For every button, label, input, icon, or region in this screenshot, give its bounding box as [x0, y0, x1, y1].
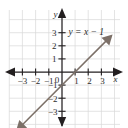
- y-tick-label: 3: [52, 28, 57, 38]
- graph-figure: −3 −2 −1 1 2 3 3 2 1 −1 −2 −3 0 x y y = …: [0, 0, 128, 128]
- y-tick-label: −2: [48, 94, 58, 104]
- y-tick-label: 1: [52, 54, 57, 64]
- x-axis-label: x: [113, 74, 118, 84]
- y-axis-label: y: [53, 9, 58, 19]
- x-tick-label: −2: [31, 76, 41, 86]
- x-tick-label: 2: [87, 76, 92, 86]
- x-axis-arrow-left-icon: [5, 68, 15, 77]
- y-axis-arrow-down-icon: [58, 117, 66, 127]
- x-tick-label: 1: [74, 76, 79, 86]
- y-axis-arrow-up-icon: [58, 8, 66, 18]
- coordinate-plane-svg: −3 −2 −1 1 2 3 3 2 1 −1 −2 −3 0 x y y = …: [0, 0, 128, 128]
- x-tick-label: 3: [100, 76, 105, 86]
- equation-label: y = x − 1: [68, 27, 105, 37]
- y-tick-label: 2: [52, 41, 57, 51]
- origin-label: 0: [55, 75, 60, 85]
- y-tick-label: −3: [48, 107, 58, 117]
- x-tick-label: −3: [18, 76, 28, 86]
